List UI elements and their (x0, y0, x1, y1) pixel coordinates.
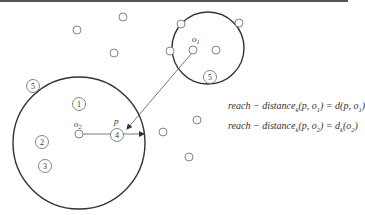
point (177, 20, 185, 28)
formula-rhs: = d(p, o (323, 100, 358, 111)
formula-reach-distance-o2: reach − distancek(p, o2) = dk(o2) (228, 120, 358, 133)
label-o2: o2 (74, 119, 82, 130)
label-p: p (113, 116, 119, 126)
formula-lhs: reach − distance (228, 120, 295, 131)
point (212, 46, 220, 54)
formula-rhs-close: ) (355, 120, 358, 131)
arrow-o1-to-p (127, 54, 191, 129)
label-3: 3 (43, 162, 47, 171)
formula-reach-distance-o1: reach − distancek(p, o1) = d(p, o1) (228, 100, 365, 113)
point (166, 47, 174, 55)
formula-rhs: = d (323, 120, 340, 131)
point-o1 (189, 46, 197, 54)
point (193, 116, 201, 124)
label-2: 2 (40, 138, 44, 147)
label-5-right: 5 (208, 73, 212, 82)
point (159, 128, 167, 136)
point-o2 (75, 130, 83, 138)
point (119, 13, 127, 21)
point (185, 153, 193, 161)
point (235, 19, 243, 27)
label-o1: o1 (192, 34, 200, 45)
point (110, 49, 118, 57)
label-5-left: 5 (31, 82, 35, 91)
label-1: 1 (77, 100, 81, 109)
formula-args: (p, o (298, 120, 316, 131)
formula-rhs-close: ) (362, 100, 365, 111)
formula-args: (p, o (298, 100, 316, 111)
neighborhood-circle-o2 (13, 77, 145, 209)
label-4: 4 (115, 131, 119, 140)
formula-lhs: reach − distance (228, 100, 295, 111)
point (73, 26, 81, 34)
